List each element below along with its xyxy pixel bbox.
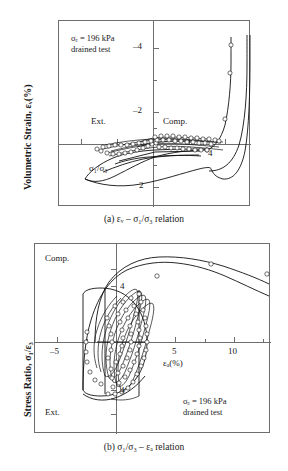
panel-b-xtick-label-minus5: –5: [50, 347, 59, 356]
panel-b: Stress Ratio, σ₁/ε₃: [0, 232, 288, 471]
panel-b-data-curves: [35, 244, 271, 434]
figure-root: Volumetric Strain, εᵥ(%): [0, 0, 288, 471]
panel-b-ytick-label-upper-4: 4: [120, 282, 125, 291]
panel-a-test-annotation: σₑ = 196 kPa drained test: [71, 33, 114, 55]
panel-a-region-comp-label: Comp.: [163, 117, 187, 126]
panel-a-ytick-label-minus4: –4: [133, 42, 142, 51]
panel-b-monotonic-markers: [155, 262, 269, 278]
panel-b-ylabel: Stress Ratio, σ₁/ε₃: [22, 342, 33, 417]
panel-b-caption: (b) σ₁/σ₃ – εₐ relation: [0, 442, 288, 452]
panel-b-test-annotation: σₑ = 196 kPa drained test: [183, 396, 226, 418]
panel-a-caption: (a) εᵥ – σ₁/σ₃ relation: [0, 214, 288, 224]
panel-b-annotation-line1: σₑ = 196 kPa: [183, 396, 226, 407]
panel-a-ytick-label-2: 2: [139, 181, 144, 190]
panel-a-ytick-label-minus2: –2: [133, 106, 142, 115]
panel-a-stress-ratio-label: σ₁/σ₃: [89, 164, 107, 173]
panel-a: Volumetric Strain, εᵥ(%): [0, 0, 288, 232]
panel-b-xlabel: εₐ(%): [163, 358, 183, 368]
panel-b-annotation-line2: drained test: [183, 407, 226, 418]
panel-b-xtick-label-10: 10: [228, 347, 237, 356]
panel-b-region-comp-label: Comp.: [45, 254, 69, 263]
panel-a-plot-frame: Ext. Comp. σ₁/σ₃ 4 σₑ = 196 kPa drained …: [58, 20, 250, 206]
panel-b-ytick-label-lower-4: 4: [120, 386, 125, 395]
panel-a-dilation-markers: [205, 43, 233, 152]
panel-a-ylabel: Volumetric Strain, εᵥ(%): [22, 85, 33, 191]
panel-a-cyclic-markers: [95, 134, 217, 156]
panel-b-region-ext-label: Ext.: [45, 408, 60, 417]
panel-a-region-ext-label: Ext.: [91, 117, 106, 126]
panel-b-plot-frame: Comp. Ext. 4 4 σₑ = 196 kPa drained test…: [34, 243, 270, 433]
panel-b-xtick-label-5: 5: [172, 347, 177, 356]
panel-a-annotation-line2: drained test: [71, 44, 114, 55]
panel-a-marker-value-label: 4: [208, 149, 213, 158]
panel-a-annotation-line1: σₑ = 196 kPa: [71, 33, 114, 44]
